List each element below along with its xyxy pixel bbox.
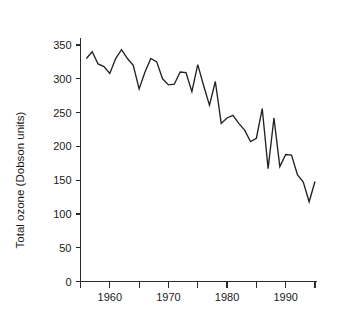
x-tick-label: 1980 [215,291,239,303]
y-tick-label: 50 [59,242,71,254]
y-tick-label: 150 [53,174,71,186]
ozone-line-chart: 050100150200250300350 1960197019801990 T… [0,0,349,325]
y-axis-ticks: 050100150200250300350 [53,39,80,288]
y-tick-label: 350 [53,39,71,51]
y-tick-label: 200 [53,140,71,152]
x-tick-label: 1960 [98,291,122,303]
x-tick-label: 1990 [273,291,297,303]
chart-canvas: 050100150200250300350 1960197019801990 T… [0,0,349,325]
y-axis-title: Total ozone (Dobson units) [14,111,26,248]
ozone-data-line [86,50,315,202]
y-tick-label: 100 [53,208,71,220]
x-axis-ticks: 1960197019801990 [81,282,316,303]
y-tick-label: 300 [53,73,71,85]
x-tick-label: 1970 [156,291,180,303]
y-tick-label: 250 [53,107,71,119]
y-tick-label: 0 [65,276,71,288]
